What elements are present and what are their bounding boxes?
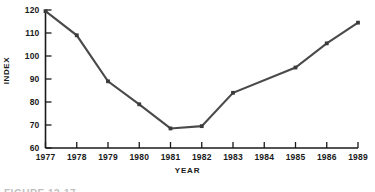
x-tick-label: 1977	[29, 152, 63, 162]
data-point-markers	[44, 9, 360, 130]
data-line-index	[46, 11, 359, 128]
x-tick-label: 1989	[341, 152, 375, 162]
x-tick-label: 1985	[279, 152, 313, 162]
y-tick-marks	[46, 10, 52, 148]
x-tick-marks	[46, 142, 359, 148]
data-point-marker	[231, 91, 235, 95]
y-tick-label: 70	[14, 121, 40, 130]
x-tick-label: 1980	[122, 152, 156, 162]
y-tick-label: 100	[14, 52, 40, 61]
y-tick-label: 80	[14, 98, 40, 107]
x-tick-label: 1984	[247, 152, 281, 162]
data-point-marker	[325, 41, 329, 45]
x-tick-label: 1986	[310, 152, 344, 162]
data-point-marker	[200, 124, 204, 128]
x-tick-label: 1981	[154, 152, 188, 162]
data-point-marker	[75, 33, 79, 37]
chart-canvas	[0, 0, 375, 175]
x-tick-label: 1979	[91, 152, 125, 162]
x-axis-title: YEAR	[0, 166, 375, 175]
data-point-marker	[137, 102, 141, 106]
y-axis-title: INDEX	[2, 49, 11, 93]
data-point-marker	[294, 66, 298, 70]
figure-caption: FIGURE 12-17	[4, 188, 76, 192]
x-tick-label: 1983	[216, 152, 250, 162]
data-point-marker	[106, 79, 110, 83]
y-tick-label: 90	[14, 75, 40, 84]
y-tick-label: 110	[14, 29, 40, 38]
x-tick-label: 1982	[185, 152, 219, 162]
data-point-marker	[44, 9, 48, 13]
x-tick-label: 1978	[60, 152, 94, 162]
data-point-marker	[169, 127, 173, 131]
plot-area: 60708090100110120 1977197819791980198119…	[0, 0, 375, 175]
figure-line-chart: 60708090100110120 1977197819791980198119…	[0, 0, 375, 192]
data-point-marker	[356, 21, 360, 25]
y-tick-label: 120	[14, 6, 40, 15]
